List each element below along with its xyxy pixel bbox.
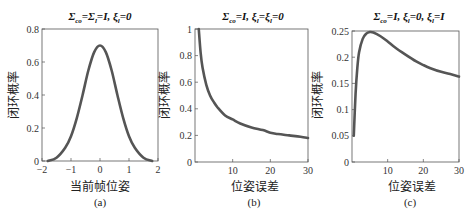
y-tick-label: 0.8 (180, 50, 193, 61)
panel-c-ylabel: 闭环概率 (310, 71, 325, 119)
y-tick-label: 0.6 (180, 77, 193, 88)
panel-a-axes (42, 29, 158, 161)
y-tick-label: 0.1 (337, 104, 350, 115)
panel-c-caption: (c) (404, 196, 417, 209)
panel-a-caption: (a) (94, 196, 107, 209)
y-tick-label: 1 (187, 24, 192, 35)
panel-c-curve (354, 32, 459, 136)
panel-a-title: Σco=Σl=I, ξl=0 (67, 10, 132, 25)
x-tick-label: 0 (98, 164, 103, 175)
y-tick-label: 0.4 (27, 90, 40, 101)
panel-c-axes (352, 31, 459, 162)
y-tick-label: 0.2 (180, 130, 193, 141)
figure: Σco=Σl=I, ξl=0 −2−101200.20.40.60.8 闭环概率… (0, 0, 472, 213)
x-tick-label: 10 (228, 165, 238, 176)
panel-b-caption: (b) (248, 196, 261, 209)
x-tick-label: 10 (383, 165, 393, 176)
x-tick-label: 30 (303, 165, 313, 176)
y-tick-label: 0.8 (27, 24, 40, 35)
panel-c: Σco=I, ξl=0, ξl=I 10203000.050.10.150.20… (310, 10, 464, 209)
panel-a-ylabel: 闭环概率 (6, 71, 21, 119)
panel-b-curve (199, 29, 308, 138)
panel-c-title: Σco=I, ξl=0, ξl=I (372, 10, 445, 25)
x-tick-label: 20 (418, 165, 428, 176)
y-tick-label: 0.6 (27, 57, 40, 68)
panel-a-curve (48, 46, 152, 162)
x-tick-label: 20 (265, 165, 275, 176)
y-tick-label: 0.2 (27, 123, 40, 134)
panel-a-ticks: −2−101200.20.40.60.8 (27, 24, 161, 176)
x-tick-label: 1 (127, 164, 132, 175)
y-tick-label: 0.05 (332, 130, 350, 141)
panel-b-xlabel: 位姿误差 (231, 179, 279, 194)
panel-c-xlabel: 位姿误差 (388, 179, 436, 194)
panel-b-ylabel: 闭环概率 (157, 71, 172, 119)
y-tick-label: 0.15 (332, 78, 350, 89)
y-tick-label: 0 (34, 156, 39, 167)
panel-b-axes (195, 29, 308, 162)
y-tick-label: 0.25 (332, 26, 350, 37)
x-tick-label: 30 (454, 165, 464, 176)
panel-b-title: Σco=I, ξl=ξl=0 (221, 10, 284, 25)
y-tick-label: 0 (187, 157, 192, 168)
y-tick-label: 0.2 (337, 52, 350, 63)
panel-a: Σco=Σl=I, ξl=0 −2−101200.20.40.60.8 闭环概率… (6, 10, 161, 209)
y-tick-label: 0.4 (180, 103, 193, 114)
panel-a-xlabel: 当前帧位姿 (70, 179, 130, 194)
x-tick-label: −1 (66, 164, 77, 175)
y-tick-label: 0 (344, 157, 349, 168)
x-tick-label: 2 (156, 164, 161, 175)
panel-b: Σco=I, ξl=ξl=0 10203000.20.40.60.81 闭环概率… (157, 10, 313, 209)
